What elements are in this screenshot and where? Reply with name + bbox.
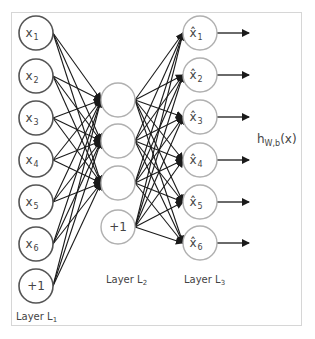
- node-l3-2: x̂2: [183, 58, 217, 92]
- node-l3-5: x̂5: [183, 185, 217, 219]
- node-l3-3: x̂3: [183, 100, 217, 134]
- node-label: +1: [27, 279, 45, 293]
- layer-label-1: Layer L1: [16, 311, 57, 324]
- node-l3-1: x̂1: [183, 16, 217, 50]
- edges: [53, 33, 249, 286]
- node-l1-3: x3: [19, 101, 53, 135]
- node-l1-7: +1: [19, 269, 53, 303]
- node-circle: [101, 83, 135, 117]
- node-l3-4: x̂4: [183, 143, 217, 177]
- node-l1-1: x1: [19, 16, 53, 50]
- node-circle: [101, 166, 135, 200]
- node-l1-2: x2: [19, 59, 53, 93]
- node-l2-3: [101, 166, 135, 200]
- network-diagram: x1x2x3x4x5x6+1+1x̂1x̂2x̂3x̂4x̂5x̂6 Layer…: [0, 0, 315, 339]
- nodes: x1x2x3x4x5x6+1+1x̂1x̂2x̂3x̂4x̂5x̂6: [19, 16, 217, 303]
- node-l1-5: x5: [19, 185, 53, 219]
- node-l3-6: x̂6: [183, 226, 217, 260]
- node-l1-6: x6: [19, 227, 53, 261]
- node-circle: [101, 124, 135, 158]
- layer-label-3: Layer L3: [184, 274, 225, 287]
- node-l2-4: +1: [101, 210, 135, 244]
- layer-label-2: Layer L2: [106, 274, 147, 287]
- node-l2-2: [101, 124, 135, 158]
- node-l1-4: x4: [19, 143, 53, 177]
- node-l2-1: [101, 83, 135, 117]
- node-label: +1: [109, 220, 127, 234]
- output-function-label: hW,b(x): [257, 132, 297, 148]
